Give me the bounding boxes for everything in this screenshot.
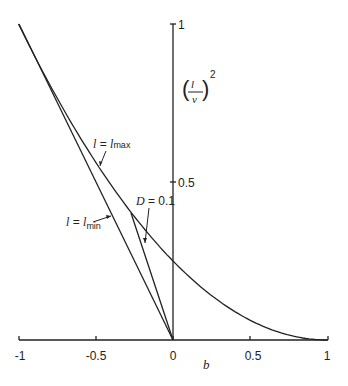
y-axis-label: ( l v ) 2	[182, 69, 216, 105]
y-tick-label: 0.5	[178, 176, 195, 190]
l-min-line	[19, 24, 173, 340]
l-max-annotation: l = lmax	[93, 137, 131, 166]
x-tick-label: -0.5	[86, 349, 107, 363]
svg-text:l: l	[191, 78, 194, 90]
arrow-icon	[145, 208, 149, 243]
x-tick-label: 0.5	[245, 349, 262, 363]
svg-text:l = lmax: l = lmax	[93, 137, 131, 151]
x-axis-label: b	[203, 357, 210, 372]
svg-text:): )	[202, 76, 209, 101]
y-tick-label: 1	[178, 18, 185, 32]
d-0.1-line	[131, 213, 173, 340]
svg-text:D = 0.1: D = 0.1	[135, 194, 175, 208]
x-tick-label: -1	[15, 349, 26, 363]
svg-text:l = lmin: l = lmin	[66, 215, 101, 231]
svg-text:v: v	[192, 93, 197, 105]
svg-text:(: (	[182, 76, 190, 101]
d-annotation: D = 0.1	[135, 194, 175, 243]
x-tick-label: 1	[324, 349, 331, 363]
svg-text:2: 2	[210, 69, 216, 80]
chart: -1 -0.5 0 0.5 1 1 0.5 b ( l v ) 2 l = lm…	[0, 0, 348, 386]
l-min-annotation: l = lmin	[66, 215, 111, 231]
y-axis	[170, 24, 176, 340]
x-tick-label: 0	[170, 349, 177, 363]
